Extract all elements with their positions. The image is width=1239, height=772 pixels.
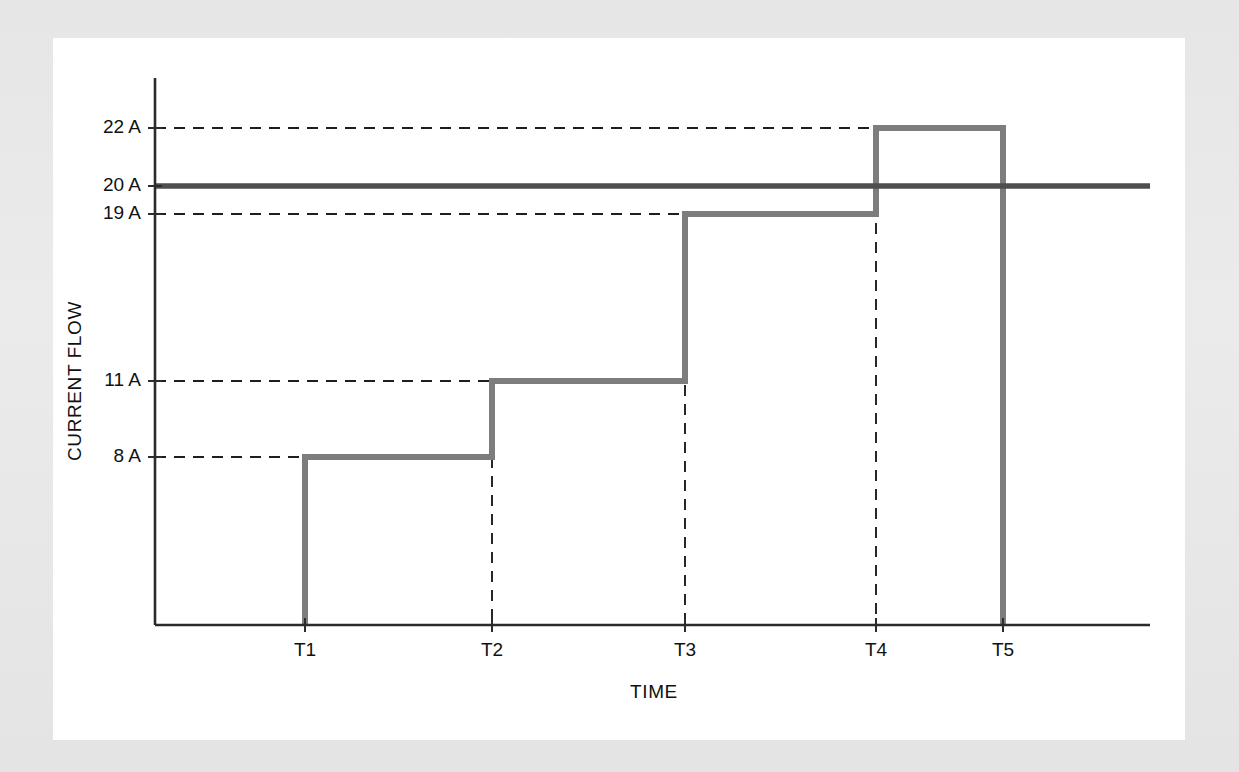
x-tick-label-t2: T2 (481, 639, 503, 660)
y-tick-label-22a: 22 A (103, 116, 141, 137)
chart-plot-area: 22 A 20 A 19 A 11 A 8 A T1 T2 T3 T4 T5 T… (53, 38, 1185, 740)
x-axis-title: TIME (630, 681, 678, 702)
x-tick-label-t3: T3 (674, 639, 696, 660)
page-background: 22 A 20 A 19 A 11 A 8 A T1 T2 T3 T4 T5 T… (0, 0, 1239, 772)
y-tick-label-11a: 11 A (104, 369, 141, 390)
step-chart-svg: 22 A 20 A 19 A 11 A 8 A T1 T2 T3 T4 T5 T… (53, 38, 1185, 740)
x-tick-label-t5: T5 (992, 639, 1014, 660)
y-axis-title: CURRENT FLOW (64, 301, 85, 461)
chart-panel: 22 A 20 A 19 A 11 A 8 A T1 T2 T3 T4 T5 T… (53, 38, 1185, 740)
x-tick-label-t4: T4 (865, 639, 888, 660)
y-tick-label-8a: 8 A (114, 445, 142, 466)
x-tick-label-t1: T1 (294, 639, 316, 660)
y-tick-label-20a: 20 A (103, 174, 141, 195)
y-tick-label-19a: 19 A (103, 202, 141, 223)
series-current-flow-step (305, 128, 1003, 625)
